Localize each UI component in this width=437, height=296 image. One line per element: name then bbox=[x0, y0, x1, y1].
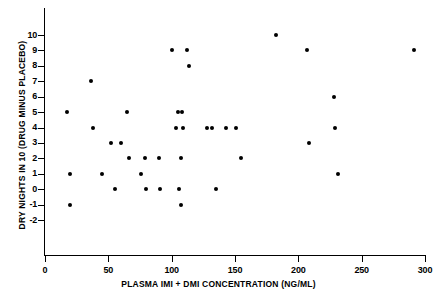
data-point bbox=[127, 156, 131, 160]
data-point bbox=[185, 48, 189, 52]
plot-data-area bbox=[0, 0, 437, 296]
data-point bbox=[210, 126, 214, 130]
data-point bbox=[158, 187, 162, 191]
data-point bbox=[180, 110, 184, 114]
data-point bbox=[187, 64, 191, 68]
data-point bbox=[205, 126, 209, 130]
data-point bbox=[174, 126, 178, 130]
data-point bbox=[332, 95, 336, 99]
data-point bbox=[336, 172, 340, 176]
data-point bbox=[157, 156, 161, 160]
data-point bbox=[274, 33, 278, 37]
data-point bbox=[91, 126, 95, 130]
data-point bbox=[305, 48, 309, 52]
data-point bbox=[143, 156, 147, 160]
data-point bbox=[113, 187, 117, 191]
data-point bbox=[179, 156, 183, 160]
data-point bbox=[100, 172, 104, 176]
data-point bbox=[68, 172, 72, 176]
data-point bbox=[234, 126, 238, 130]
data-point bbox=[109, 141, 113, 145]
data-point bbox=[224, 126, 228, 130]
data-point bbox=[139, 172, 143, 176]
data-point bbox=[177, 187, 181, 191]
data-point bbox=[68, 203, 72, 207]
data-point bbox=[307, 141, 311, 145]
scatter-plot-figure: -2-1012345678910 050100150200250300 PLAS… bbox=[0, 0, 437, 296]
data-point bbox=[412, 48, 416, 52]
data-point bbox=[65, 110, 69, 114]
x-axis-title: PLASMA IMI + DMI CONCENTRATION (NG/ML) bbox=[0, 279, 437, 289]
data-point bbox=[333, 126, 337, 130]
data-point bbox=[125, 110, 129, 114]
data-point bbox=[179, 203, 183, 207]
y-axis-title: DRY NIGHTS IN 10 (DRUG MINUS PLACEBO) bbox=[17, 15, 27, 255]
data-point bbox=[214, 187, 218, 191]
data-point bbox=[181, 126, 185, 130]
data-point bbox=[89, 79, 93, 83]
data-point bbox=[239, 156, 243, 160]
data-point bbox=[170, 48, 174, 52]
data-point bbox=[144, 187, 148, 191]
data-point bbox=[119, 141, 123, 145]
